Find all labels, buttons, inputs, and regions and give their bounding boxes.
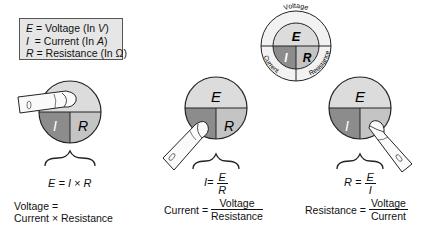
svg-text:R: R: [78, 118, 88, 134]
svg-text:E: E: [355, 88, 366, 105]
word-formula-resistance: Resistance = VoltageCurrent: [305, 197, 408, 222]
equation-voltage: E = I × R: [48, 177, 91, 189]
word-den: Current: [369, 210, 408, 222]
wheel-e-label: E: [292, 29, 301, 44]
panel-resistance-circle: E I: [329, 77, 412, 172]
brace-icon: [45, 151, 95, 166]
eq-num: E: [217, 171, 228, 184]
word-formula-voltage: Voltage = Current × Resistance: [14, 200, 113, 224]
word-num: Voltage: [211, 197, 263, 210]
eq-num: E: [365, 171, 376, 184]
finger-icon: [369, 121, 412, 172]
svg-text:I: I: [53, 118, 57, 134]
word-lhs: Resistance =: [305, 204, 366, 216]
svg-text:I: I: [345, 118, 349, 134]
panel-current-circle: E R: [163, 77, 247, 170]
eq-den: R: [217, 184, 228, 196]
word-line1: Voltage =: [14, 200, 113, 212]
wheel-r-label: R: [303, 51, 312, 65]
word-num: Voltage: [369, 197, 408, 210]
eq-lhs: E: [48, 177, 55, 189]
equation-current: I= ER: [204, 171, 228, 196]
brace-icon: [193, 154, 239, 169]
eq-rhs: I × R: [68, 177, 92, 189]
word-lhs: Current =: [164, 204, 208, 216]
word-formula-current: Current = VoltageResistance: [164, 197, 263, 222]
ohms-law-wheel: E I R Voltage Current Resistance: [261, 2, 331, 81]
word-line2: Current × Resistance: [14, 212, 113, 224]
equation-resistance: R = EI: [344, 171, 376, 196]
eq-lhs: R: [344, 176, 352, 188]
finger-icon: [163, 121, 208, 170]
wheel-voltage-label: Voltage: [283, 2, 310, 11]
svg-text:R: R: [224, 118, 234, 134]
word-den: Resistance: [211, 210, 263, 222]
panel-voltage-circle: I R: [18, 81, 101, 166]
brace-icon: [337, 154, 383, 169]
eq-lhs: I: [204, 176, 207, 188]
eq-den: I: [365, 184, 376, 196]
svg-text:E: E: [211, 88, 222, 105]
